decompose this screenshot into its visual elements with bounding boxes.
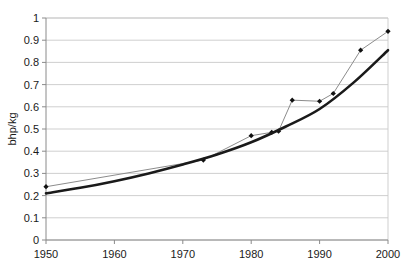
x-axis-tick-label: 1960 [102,248,126,260]
page-caption-sliver [0,261,403,273]
y-axis-tick-label: 0.5 [24,123,39,135]
y-axis-tick-label: 0 [33,234,39,246]
x-axis-tick-label: 1970 [171,248,195,260]
line-chart: 00.10.20.30.40.50.60.70.80.9119501960197… [0,0,403,273]
x-axis-tick-label: 2000 [376,248,400,260]
y-axis-tick-label: 0.6 [24,101,39,113]
y-axis-tick-label: 1 [33,12,39,24]
x-axis-tick-label: 1950 [34,248,58,260]
y-axis-tick-label: 0.8 [24,56,39,68]
y-axis-tick-label: 0.1 [24,212,39,224]
y-axis-tick-label: 0.2 [24,190,39,202]
y-axis-tick-label: 0.4 [24,145,39,157]
y-axis-title: bhp/kg [6,112,18,145]
y-axis-tick-label: 0.7 [24,79,39,91]
chart-container: 00.10.20.30.40.50.60.70.80.9119501960197… [0,0,403,273]
x-axis-tick-label: 1990 [307,248,331,260]
y-axis-tick-label: 0.3 [24,167,39,179]
x-axis-tick-label: 1980 [239,248,263,260]
y-axis-tick-label: 0.9 [24,34,39,46]
